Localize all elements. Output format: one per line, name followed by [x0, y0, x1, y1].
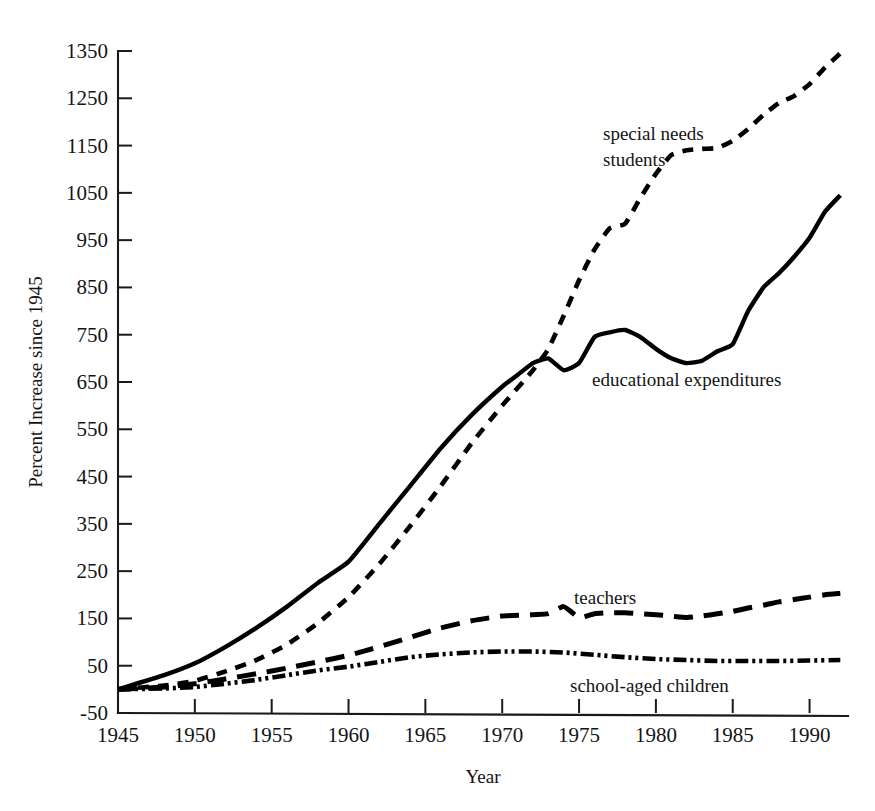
- y-tick-label: 250: [77, 559, 109, 583]
- x-axis-tick-labels: 1945195019551960196519701975198019851990: [97, 723, 831, 747]
- y-tick-label: 50: [87, 654, 108, 678]
- y-axis-title: Percent Increase since 1945: [25, 276, 46, 488]
- x-tick-label: 1970: [481, 723, 523, 747]
- x-tick-label: 1990: [789, 723, 831, 747]
- series-label-teachers: teachers: [574, 587, 636, 608]
- series-label-school-aged-children: school-aged children: [570, 675, 729, 696]
- y-tick-label: 550: [77, 417, 109, 441]
- y-tick-label: 1050: [66, 181, 108, 205]
- y-tick-label: 750: [77, 323, 109, 347]
- y-tick-label: 850: [77, 275, 109, 299]
- x-tick-label: 1955: [251, 723, 293, 747]
- series-line-teachers: [118, 593, 840, 689]
- x-tick-label: 1965: [404, 723, 446, 747]
- x-tick-label: 1960: [328, 723, 370, 747]
- y-tick-label: 950: [77, 228, 109, 252]
- y-axis-tick-labels: -505015025035045055065075085095010501150…: [66, 39, 108, 725]
- y-axis-ticks: [118, 51, 132, 713]
- x-axis-title: Year: [465, 766, 501, 787]
- y-tick-label: 450: [77, 465, 109, 489]
- series-line-educational-expenditures: [118, 195, 840, 689]
- y-tick-label: 1150: [67, 134, 108, 158]
- series-label-educational-expenditures: educational expenditures: [592, 369, 781, 390]
- y-tick-label: 150: [77, 606, 109, 630]
- y-tick-label: 1350: [66, 39, 108, 63]
- x-tick-label: 1950: [174, 723, 216, 747]
- line-chart-svg: -505015025035045055065075085095010501150…: [0, 0, 875, 811]
- x-axis-ticks: [118, 699, 810, 713]
- x-tick-label: 1945: [97, 723, 139, 747]
- series-label-special-needs-line1: special needs: [603, 123, 704, 144]
- y-tick-label: 350: [77, 512, 109, 536]
- chart-figure: -505015025035045055065075085095010501150…: [0, 0, 875, 811]
- x-tick-label: 1980: [635, 723, 677, 747]
- y-tick-label: 650: [77, 370, 109, 394]
- x-axis-line: [118, 713, 848, 716]
- y-tick-label: -50: [80, 701, 108, 725]
- series-label-special-needs-line2: students: [603, 149, 665, 170]
- x-tick-label: 1975: [558, 723, 600, 747]
- x-tick-label: 1985: [712, 723, 754, 747]
- y-tick-label: 1250: [66, 86, 108, 110]
